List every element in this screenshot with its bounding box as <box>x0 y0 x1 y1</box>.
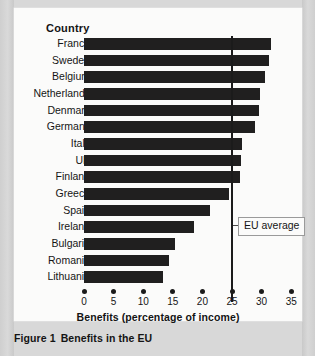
bar-row-label: Netherlands <box>0 87 90 99</box>
x-axis-tick-dot <box>141 289 146 294</box>
figure-caption-number: Figure 1 <box>14 332 56 344</box>
bar-row: Belgium <box>14 69 302 86</box>
bar <box>84 188 229 200</box>
bar <box>84 271 163 283</box>
bar-row-label: Romania <box>0 254 90 266</box>
x-axis-tick-label: 30 <box>249 296 275 307</box>
bar-row: Greece <box>14 186 302 203</box>
bar-row-label: Bulgaria <box>0 237 90 249</box>
x-axis-tick-dot <box>230 289 235 294</box>
x-axis-tick-label: 35 <box>278 296 304 307</box>
bar-row: Germany <box>14 119 302 136</box>
x-axis-tick: 35 <box>278 289 304 307</box>
bar-row-label: Spain <box>0 204 90 216</box>
x-axis-tick-label: 25 <box>219 296 245 307</box>
bar <box>84 238 175 250</box>
x-axis-tick-dot <box>259 289 264 294</box>
bar-row: Bulgaria <box>14 236 302 253</box>
bar-row-label: Greece <box>0 187 90 199</box>
x-axis-tick-dot <box>170 289 175 294</box>
x-axis-tick-label: 5 <box>101 296 127 307</box>
x-axis-tick: 15 <box>160 289 186 307</box>
x-axis-tick-label: 20 <box>189 296 215 307</box>
bar-row: Finland <box>14 169 302 186</box>
bar <box>84 38 271 50</box>
bar-row-label: Denmark <box>0 104 90 116</box>
bar-row-label: France <box>0 37 90 49</box>
x-axis-tick-dot <box>82 289 87 294</box>
x-axis-tick: 25 <box>219 289 245 307</box>
bar <box>84 205 210 217</box>
bar-row-label: Finland <box>0 170 90 182</box>
bar-row: UK <box>14 153 302 170</box>
bar-row: Lithuania <box>14 269 302 286</box>
bar-row: Denmark <box>14 103 302 120</box>
bar-row-label: Germany <box>0 120 90 132</box>
bar <box>84 171 240 183</box>
bar <box>84 55 269 67</box>
bar-row-label: Belgium <box>0 70 90 82</box>
x-axis-tick: 10 <box>130 289 156 307</box>
x-axis: Benefits (percentage of income) 05101520… <box>14 289 302 321</box>
bar-row: Netherlands <box>14 86 302 103</box>
bar-row-label: UK <box>0 154 90 166</box>
bar-row-label: Ireland <box>0 220 90 232</box>
bar-row-label: Italy <box>0 137 90 149</box>
x-axis-tick-dot <box>111 289 116 294</box>
x-axis-title: Benefits (percentage of income) <box>14 311 302 323</box>
x-axis-tick: 30 <box>249 289 275 307</box>
figure-caption: Figure 1Benefits in the EU <box>14 332 152 344</box>
plot-area: FranceSwedenBelgiumNetherlandsDenmarkGer… <box>14 36 302 286</box>
x-axis-tick-dot <box>200 289 205 294</box>
x-axis-tick: 0 <box>71 289 97 307</box>
bar-row-label: Lithuania <box>0 270 90 282</box>
bar <box>84 88 260 100</box>
eu-average-reference-line <box>231 36 233 302</box>
x-axis-tick: 20 <box>189 289 215 307</box>
bar-row: Italy <box>14 136 302 153</box>
figure-caption-text: Benefits in the EU <box>61 332 153 344</box>
category-axis-header: Country <box>46 22 90 34</box>
x-axis-tick-label: 0 <box>71 296 97 307</box>
bar <box>84 121 255 133</box>
bar <box>84 71 265 83</box>
x-axis-tick-label: 10 <box>130 296 156 307</box>
bar-row: France <box>14 36 302 53</box>
bar-row: Sweden <box>14 53 302 70</box>
bar <box>84 221 194 233</box>
bar-row-label: Sweden <box>0 54 90 66</box>
bar-row: Romania <box>14 253 302 270</box>
bar <box>84 155 241 167</box>
x-axis-tick-dot <box>289 289 294 294</box>
eu-average-callout-label: EU average <box>238 217 305 236</box>
bar-chart: Country FranceSwedenBelgiumNetherlandsDe… <box>14 8 302 321</box>
x-axis-tick-label: 15 <box>160 296 186 307</box>
x-axis-tick: 5 <box>101 289 127 307</box>
bar <box>84 138 242 150</box>
bar <box>84 255 169 267</box>
